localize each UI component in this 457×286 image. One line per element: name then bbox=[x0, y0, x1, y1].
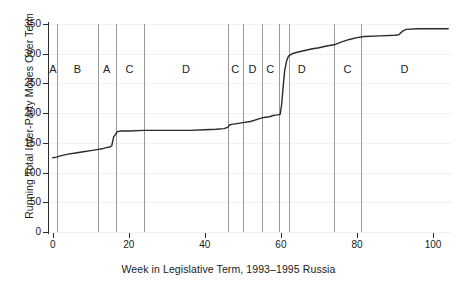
y-tick-mark bbox=[43, 83, 48, 84]
series-line-chart bbox=[49, 24, 452, 232]
y-tick-mark bbox=[43, 54, 48, 55]
y-tick-mark bbox=[43, 202, 48, 203]
x-tick-label: 60 bbox=[261, 240, 301, 250]
y-tick-label: 50 bbox=[13, 197, 41, 207]
y-tick-mark bbox=[43, 143, 48, 144]
y-tick-label: 350 bbox=[13, 19, 41, 29]
y-tick-mark bbox=[43, 173, 48, 174]
x-tick-label: 20 bbox=[109, 240, 149, 250]
y-tick-mark bbox=[43, 24, 48, 25]
y-tick-label: 250 bbox=[13, 78, 41, 88]
x-tick-label: 40 bbox=[185, 240, 225, 250]
x-tick-label: 0 bbox=[33, 240, 73, 250]
y-tick-label: 100 bbox=[13, 168, 41, 178]
y-tick-mark bbox=[43, 232, 48, 233]
x-tick-mark bbox=[53, 233, 54, 238]
x-tick-mark bbox=[205, 233, 206, 238]
y-tick-mark bbox=[43, 113, 48, 114]
running-total-line bbox=[53, 29, 448, 158]
x-axis-title: Week in Legislative Term, 1993–1995 Russ… bbox=[0, 263, 457, 275]
x-tick-label: 80 bbox=[337, 240, 377, 250]
y-tick-label: 200 bbox=[13, 108, 41, 118]
y-tick-label: 300 bbox=[13, 49, 41, 59]
x-tick-mark bbox=[129, 233, 130, 238]
x-tick-mark bbox=[433, 233, 434, 238]
x-tick-mark bbox=[281, 233, 282, 238]
y-tick-label: 0 bbox=[13, 227, 41, 237]
y-tick-label: 150 bbox=[13, 138, 41, 148]
plot-area: ABACDCDCDCD bbox=[49, 24, 452, 232]
x-tick-mark bbox=[357, 233, 358, 238]
horizontal-gridline bbox=[49, 232, 452, 233]
chart-figure: Running Total Inter-Party Moves Over Ter… bbox=[0, 0, 457, 286]
x-tick-label: 100 bbox=[413, 240, 453, 250]
